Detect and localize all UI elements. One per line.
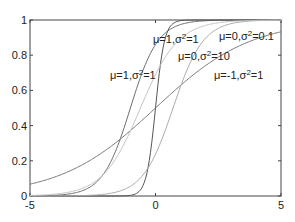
curve-label: μ=0,σ2=0.1 xyxy=(219,29,274,42)
cdf-chart: -50500.20.40.60.81 μ=1,σ2=1μ=1,σ2=1μ=0,σ… xyxy=(0,0,295,222)
curve-label: μ=0,σ2=10 xyxy=(178,49,230,62)
x-tick-label: 0 xyxy=(152,199,158,211)
curve-label: μ=1,σ2=1 xyxy=(110,68,156,81)
y-tick-label: 1 xyxy=(21,14,27,26)
y-tick-label: 0.2 xyxy=(12,155,27,167)
curve-label: μ=1,σ2=1 xyxy=(153,32,199,45)
y-tick-label: 0.8 xyxy=(12,49,27,61)
y-tick-label: 0.6 xyxy=(12,84,27,96)
y-tick-label: 0 xyxy=(21,190,27,202)
y-tick-label: 0.4 xyxy=(12,120,27,132)
x-tick-label: 5 xyxy=(278,199,284,211)
curve-label: μ=-1,σ2=1 xyxy=(214,68,263,81)
